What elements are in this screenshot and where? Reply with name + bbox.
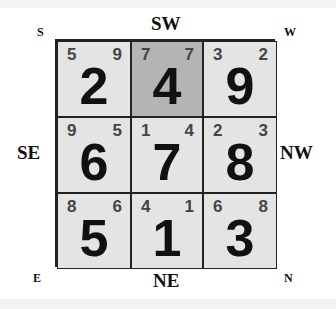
grid-cell: 6 8 3 xyxy=(203,193,277,269)
lo-shu-grid: 5 9 2 7 7 4 3 2 9 9 5 6 1 4 7 2 3 8 8 6 … xyxy=(55,39,275,267)
grid-cell: 2 3 8 xyxy=(203,117,277,193)
direction-label-e: E xyxy=(33,271,41,286)
direction-label-se: SE xyxy=(17,142,40,164)
direction-label-w: W xyxy=(284,25,296,40)
cell-main-number: 6 xyxy=(58,134,130,190)
cell-main-number: 3 xyxy=(204,210,276,266)
direction-label-ne: NE xyxy=(153,270,179,292)
cell-main-number: 5 xyxy=(58,210,130,266)
grid-cell: 4 1 1 xyxy=(131,193,203,269)
cell-main-number: 2 xyxy=(58,58,130,114)
bottom-band xyxy=(0,299,336,309)
direction-label-n: N xyxy=(284,271,293,286)
direction-label-nw: NW xyxy=(280,142,313,164)
grid-cell: 9 5 6 xyxy=(57,117,131,193)
grid-cell: 3 2 9 xyxy=(203,41,277,117)
direction-label-sw: SW xyxy=(151,13,181,35)
grid-cell: 1 4 7 xyxy=(131,117,203,193)
grid-cell: 8 6 5 xyxy=(57,193,131,269)
cell-main-number: 1 xyxy=(132,210,202,266)
top-band xyxy=(0,0,336,8)
cell-main-number: 8 xyxy=(204,134,276,190)
grid-cell: 5 9 2 xyxy=(57,41,131,117)
cell-main-number: 7 xyxy=(132,134,202,190)
direction-label-s: S xyxy=(37,25,44,40)
cell-main-number: 4 xyxy=(132,58,202,114)
grid-cell-highlighted: 7 7 4 xyxy=(131,41,203,117)
cell-main-number: 9 xyxy=(204,58,276,114)
